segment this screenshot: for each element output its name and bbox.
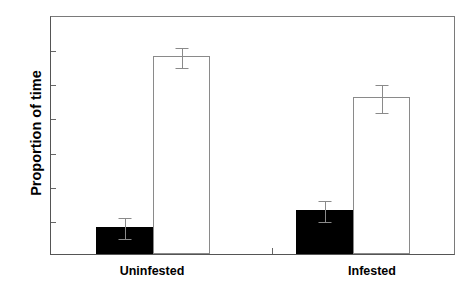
y-axis-tick-mark <box>51 85 56 86</box>
error-cap-bottom <box>318 222 331 223</box>
x-axis-group-label-uninfested: Uninfested <box>72 264 232 278</box>
error-cap-bottom <box>175 68 188 69</box>
error-cap-top <box>318 201 331 202</box>
y-axis-tick-mark <box>51 222 56 223</box>
plot-inner <box>51 17 454 254</box>
error-bar-uninfested-open <box>182 48 183 68</box>
x-axis-tick-mark <box>272 248 273 254</box>
y-axis-tick-mark <box>51 154 56 155</box>
plot-area <box>50 16 455 255</box>
error-cap-bottom <box>118 239 131 240</box>
y-axis-tick-mark <box>51 119 56 120</box>
x-axis-group-label-infested: Infested <box>292 264 452 278</box>
bar-uninfested-open <box>153 56 210 254</box>
bar-chart-figure: Proportion of time 0.00.10.20.30.40.50.6… <box>0 0 462 291</box>
error-bar-uninfested-filled <box>125 218 126 238</box>
y-axis-tick-mark <box>51 51 56 52</box>
error-cap-top <box>118 218 131 219</box>
bar-infested-open <box>353 97 410 254</box>
y-axis-title: Proportion of time <box>28 23 44 243</box>
y-axis-tick-mark <box>51 188 56 189</box>
error-cap-bottom <box>375 113 388 114</box>
error-cap-top <box>375 85 388 86</box>
error-cap-top <box>175 48 188 49</box>
error-bar-infested-open <box>382 85 383 112</box>
error-bar-infested-filled <box>325 201 326 221</box>
